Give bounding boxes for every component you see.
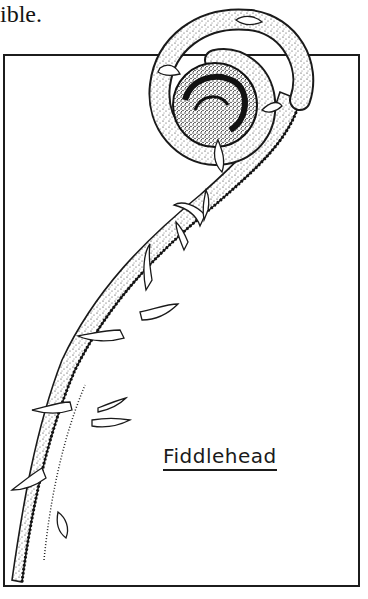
fiddlehead-illustration-icon [0,0,368,599]
figure-caption: Fiddlehead [163,445,277,471]
